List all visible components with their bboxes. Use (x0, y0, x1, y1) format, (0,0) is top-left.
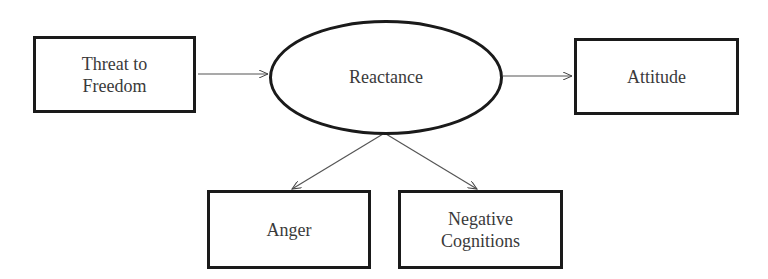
node-threat-to-freedom: Threat to Freedom (33, 36, 196, 113)
node-label: Negative Cognitions (441, 208, 520, 252)
node-label: Anger (267, 219, 312, 241)
node-label: Attitude (627, 66, 686, 88)
edge-reactance-to-negative (386, 134, 477, 189)
node-label: Reactance (349, 67, 423, 88)
node-label: Threat to Freedom (82, 53, 147, 97)
node-attitude: Attitude (574, 38, 739, 115)
node-anger: Anger (207, 190, 371, 269)
node-reactance: Reactance (269, 20, 503, 135)
node-negative-cognitions: Negative Cognitions (398, 190, 563, 269)
edge-reactance-to-anger (292, 134, 383, 189)
